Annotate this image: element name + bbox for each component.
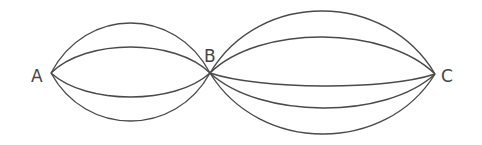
edge-b-c — [210, 73, 435, 134]
edge-b-c — [210, 11, 435, 74]
node-label-c: C — [441, 66, 453, 86]
edge-a-b — [51, 73, 210, 97]
edges-group — [51, 11, 435, 134]
node-label-a: A — [31, 66, 43, 86]
diagram-canvas: A B C — [0, 0, 482, 145]
edge-b-c — [210, 73, 435, 108]
edge-a-b — [51, 47, 210, 73]
path-diagram: A B C — [0, 0, 482, 145]
edge-b-c — [210, 73, 435, 86]
edge-a-b — [51, 23, 210, 73]
edge-b-c — [210, 37, 435, 74]
node-label-b: B — [204, 46, 216, 66]
